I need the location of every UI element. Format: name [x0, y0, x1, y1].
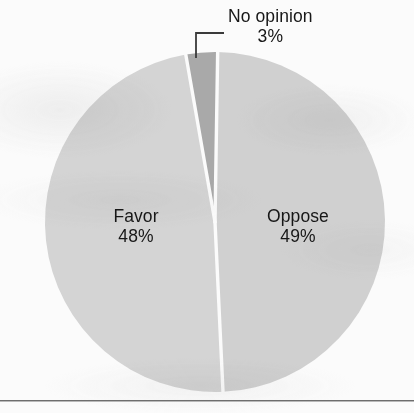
- slice-label-favor-name: Favor: [113, 206, 158, 226]
- slice-label-favor-value: 48%: [90, 226, 182, 246]
- bottom-divider-rule: [0, 400, 414, 402]
- slice-label-oppose-name: Oppose: [267, 206, 329, 226]
- slice-label-no-opinion: No opinion 3%: [228, 6, 313, 46]
- slice-label-no-opinion-value: 3%: [228, 26, 313, 46]
- pie-chart-figure: No opinion 3% Favor 48% Oppose 49%: [0, 0, 414, 413]
- slice-label-oppose: Oppose 49%: [248, 206, 348, 246]
- pie-chart-svg: [0, 0, 414, 413]
- slice-label-oppose-value: 49%: [248, 226, 348, 246]
- slice-label-no-opinion-name: No opinion: [228, 6, 313, 26]
- slice-label-favor: Favor 48%: [90, 206, 182, 246]
